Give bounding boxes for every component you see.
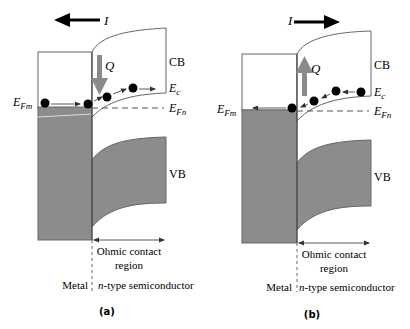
- semiconductor-label: n-type semiconductor: [299, 281, 395, 293]
- semiconductor-label: n-type semiconductor: [98, 279, 194, 291]
- metal-label: Metal: [266, 281, 292, 293]
- ec-label: Ec: [168, 81, 180, 97]
- efn-label: EFn: [373, 104, 392, 120]
- current-arrow-left-icon: [54, 13, 100, 27]
- electron-icon: [129, 84, 138, 93]
- efn-label: EFn: [168, 101, 187, 117]
- efm-label: EFm: [216, 102, 237, 118]
- vb-label: VB: [169, 167, 186, 181]
- current-label: I: [287, 13, 293, 28]
- electron-icon: [41, 99, 50, 108]
- electron-icon: [288, 104, 297, 113]
- valence-band: [297, 140, 371, 230]
- panel-a: I Q CB Ec EFn EFm VB: [12, 13, 194, 317]
- ec-label: Ec: [373, 85, 385, 101]
- electron-icon: [103, 93, 112, 102]
- metal-label: Metal: [62, 279, 88, 291]
- electron-icon: [84, 100, 93, 109]
- electron-icon: [310, 97, 319, 106]
- current-arrow-right-icon: [294, 15, 340, 29]
- conduction-band: [297, 31, 371, 121]
- conduction-band: [92, 28, 166, 117]
- valence-band: [92, 137, 166, 227]
- ohmic-label-line1: Ohmic contact: [97, 245, 161, 257]
- vb-label: VB: [374, 170, 391, 184]
- metal-filled-states: [242, 110, 297, 243]
- ohmic-label-line1: Ohmic contact: [302, 248, 366, 260]
- current-label: I: [103, 13, 109, 28]
- panel-caption: (b): [304, 309, 320, 320]
- metal-empty-states: [242, 54, 297, 110]
- efm-label: EFm: [12, 95, 33, 111]
- energy-band-diagram: I Q CB Ec EFn EFm VB: [0, 0, 410, 329]
- metal-filled-states: [38, 107, 92, 240]
- ohmic-label-line2: region: [115, 259, 144, 271]
- electron-icon: [332, 87, 341, 96]
- heat-label: Q: [311, 61, 321, 76]
- ohmic-label-line2: region: [320, 262, 349, 274]
- heat-label: Q: [105, 58, 115, 73]
- panel-caption: (a): [99, 306, 115, 317]
- cb-label: CB: [169, 55, 185, 69]
- panel-b: I Q CB Ec EFn EF: [216, 13, 395, 320]
- electron-icon: [357, 88, 366, 97]
- cb-label: CB: [374, 58, 390, 72]
